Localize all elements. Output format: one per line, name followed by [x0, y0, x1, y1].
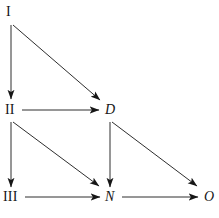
node-label-N: N	[105, 190, 114, 204]
node-label-O: O	[204, 190, 214, 204]
node-label-III: III	[3, 190, 18, 204]
edge-II-to-N	[13, 122, 99, 186]
node-label-II: II	[5, 103, 15, 117]
node-label-D: D	[105, 103, 115, 117]
node-label-I: I	[6, 5, 11, 19]
edge-I-to-D	[13, 25, 100, 100]
edge-D-to-O	[112, 122, 197, 186]
diagram-canvas: I II D III N O	[0, 0, 219, 218]
